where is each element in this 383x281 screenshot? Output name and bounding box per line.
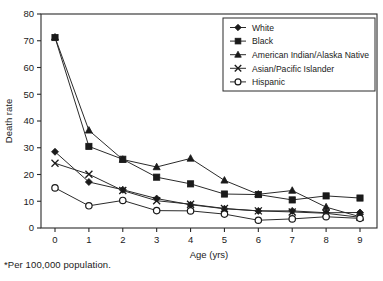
y-tick-label: 30 bbox=[23, 142, 34, 153]
x-tick-label: 9 bbox=[357, 234, 362, 245]
data-point-marker bbox=[187, 155, 194, 162]
y-axis: 01020304050607080 bbox=[23, 8, 41, 233]
data-point-marker bbox=[323, 193, 329, 199]
x-tick-label: 2 bbox=[120, 234, 125, 245]
x-axis-title: Age (yrs) bbox=[190, 249, 229, 260]
y-tick-label: 50 bbox=[23, 89, 34, 100]
y-tick-label: 0 bbox=[29, 222, 34, 233]
x-axis: 0123456789 bbox=[52, 228, 362, 245]
legend-label: Black bbox=[252, 36, 274, 46]
series-hispanic bbox=[52, 185, 363, 224]
data-point-marker bbox=[235, 79, 241, 85]
data-point-marker bbox=[86, 203, 92, 209]
data-point-marker bbox=[221, 177, 228, 184]
legend-label: American Indian/Alaska Native bbox=[252, 50, 369, 60]
data-point-marker bbox=[289, 197, 295, 203]
legend: WhiteBlackAmerican Indian/Alaska NativeA… bbox=[223, 18, 375, 91]
data-point-marker bbox=[255, 217, 261, 223]
x-tick-label: 0 bbox=[52, 234, 57, 245]
data-point-marker bbox=[85, 127, 92, 134]
y-tick-label: 80 bbox=[23, 8, 34, 19]
chart-footnote: *Per 100,000 population. bbox=[4, 259, 111, 270]
data-point-marker bbox=[289, 216, 295, 222]
death-rate-line-chart: 010203040506070800123456789Age (yrs)Deat… bbox=[0, 0, 383, 281]
data-point-marker bbox=[85, 171, 92, 178]
data-point-marker bbox=[86, 143, 92, 149]
x-tick-label: 8 bbox=[323, 234, 328, 245]
data-point-marker bbox=[357, 195, 363, 201]
data-point-marker bbox=[120, 197, 126, 203]
y-axis-title: Death rate bbox=[3, 99, 14, 143]
data-point-marker bbox=[187, 181, 193, 187]
y-tick-label: 60 bbox=[23, 62, 34, 73]
data-point-marker bbox=[52, 185, 58, 191]
data-point-marker bbox=[357, 215, 363, 221]
data-point-marker bbox=[235, 38, 241, 44]
chart-figure: 010203040506070800123456789Age (yrs)Deat… bbox=[0, 0, 383, 281]
y-tick-label: 20 bbox=[23, 169, 34, 180]
data-point-marker bbox=[154, 174, 160, 180]
data-point-marker bbox=[221, 191, 227, 197]
data-point-marker bbox=[323, 214, 329, 220]
x-tick-label: 4 bbox=[188, 234, 193, 245]
y-tick-label: 40 bbox=[23, 115, 34, 126]
data-point-marker bbox=[289, 187, 296, 194]
data-point-marker bbox=[187, 208, 193, 214]
x-tick-label: 5 bbox=[222, 234, 227, 245]
x-tick-label: 3 bbox=[154, 234, 159, 245]
y-tick-label: 10 bbox=[23, 196, 34, 207]
data-point-marker bbox=[323, 203, 330, 210]
legend-label: Asian/Pacific Islander bbox=[252, 64, 334, 74]
data-point-marker bbox=[289, 207, 296, 214]
data-point-marker bbox=[221, 211, 227, 217]
x-tick-label: 6 bbox=[256, 234, 261, 245]
x-tick-label: 1 bbox=[86, 234, 91, 245]
legend-label: Hispanic bbox=[252, 77, 286, 87]
data-point-marker bbox=[52, 160, 59, 167]
x-tick-label: 7 bbox=[290, 234, 295, 245]
data-point-marker bbox=[153, 207, 159, 213]
y-tick-label: 70 bbox=[23, 35, 34, 46]
legend-label: White bbox=[252, 23, 274, 33]
